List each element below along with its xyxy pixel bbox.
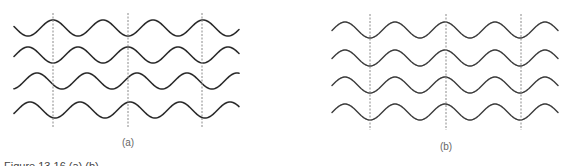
figure-caption: Figure 13.16 (a) (b) xyxy=(4,160,99,166)
wave-b-2 xyxy=(332,50,558,66)
panel-b-waves-in-phase xyxy=(332,14,558,130)
wave-b-4 xyxy=(332,104,558,120)
wave-figure xyxy=(0,0,563,166)
wave-b-3 xyxy=(332,77,558,93)
wave-b-1 xyxy=(332,22,558,38)
panel-b-label: (b) xyxy=(440,141,452,152)
wave-a-1 xyxy=(14,20,239,36)
wave-a-2 xyxy=(14,47,239,63)
panel-a-waves-out-of-phase xyxy=(14,13,239,127)
wave-a-3 xyxy=(14,73,239,89)
wave-a-4 xyxy=(14,102,239,118)
panel-a-label: (a) xyxy=(122,137,134,148)
